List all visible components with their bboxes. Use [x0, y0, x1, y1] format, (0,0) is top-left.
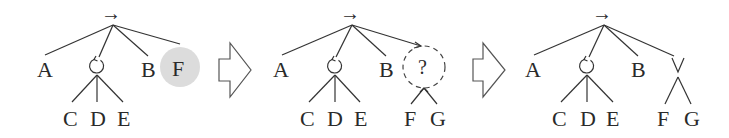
edge: [45, 25, 113, 55]
node-e: E: [606, 106, 619, 131]
loop-operator-icon: [90, 56, 104, 73]
node-d: D: [90, 106, 106, 131]
edge: [604, 25, 638, 56]
node-f-highlighted: F: [172, 56, 184, 81]
unknown-operator-label: ?: [418, 56, 427, 78]
loop-operator-icon: [328, 56, 342, 73]
sequence-operator-icon: →: [592, 2, 612, 24]
edge: [352, 25, 421, 46]
node-a: A: [273, 57, 289, 82]
node-f: F: [404, 106, 416, 131]
node-c: C: [300, 106, 315, 131]
edge: [665, 77, 678, 104]
edge: [309, 75, 335, 102]
edge: [335, 75, 360, 102]
node-g: G: [684, 106, 700, 131]
node-g: G: [430, 106, 446, 131]
node-e: E: [117, 106, 130, 131]
diagram-svg: → A B F C D E →: [0, 0, 729, 138]
edge-arrowhead: [420, 88, 428, 92]
sequence-operator-icon: →: [340, 2, 360, 24]
sequence-operator-icon: →: [101, 2, 121, 24]
edge: [72, 75, 97, 102]
node-c: C: [552, 106, 567, 131]
edge: [336, 25, 352, 57]
edge: [678, 77, 691, 104]
loop-operator-icon: [580, 56, 594, 73]
edge: [604, 25, 674, 56]
edge: [561, 75, 587, 102]
node-d: D: [580, 106, 596, 131]
node-a: A: [525, 57, 541, 82]
node-a: A: [37, 57, 53, 82]
transition-arrow-icon: [219, 43, 251, 97]
edge: [589, 25, 604, 57]
edge: [282, 25, 352, 55]
node-d: D: [327, 106, 343, 131]
node-b: B: [379, 57, 394, 82]
edge: [534, 25, 604, 55]
panel-3: → A B C D E F G: [525, 2, 700, 131]
panel-1: → A B F C D E: [37, 2, 200, 131]
transition-arrow-icon: [473, 43, 505, 97]
edge: [97, 75, 123, 102]
node-e: E: [354, 106, 367, 131]
node-c: C: [63, 106, 78, 131]
node-b: B: [141, 57, 156, 82]
node-f: F: [657, 106, 669, 131]
edge: [587, 75, 613, 102]
choice-operator-icon: [672, 58, 684, 72]
process-tree-diagram: → A B F C D E →: [0, 0, 729, 138]
panel-2: → A B C D E ? F G: [273, 2, 446, 131]
node-b: B: [631, 57, 646, 82]
